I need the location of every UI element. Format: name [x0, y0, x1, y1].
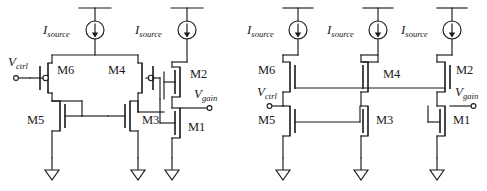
- left-isource-2: [171, 8, 203, 62]
- right-isource-2: [363, 8, 393, 62]
- right-ground-1: [276, 158, 290, 180]
- left-m4-label: M4: [108, 63, 126, 77]
- right-m3-label: M3: [376, 113, 393, 127]
- right-isource-2-label: Isource: [326, 22, 354, 39]
- left-ground-2: [131, 158, 145, 180]
- right-vgain-label: Vgain: [455, 84, 478, 101]
- right-transistor-m3: [361, 106, 368, 158]
- right-isource-3: [437, 8, 467, 55]
- right-transistor-m6: [283, 55, 445, 106]
- left-m1-label: M1: [188, 120, 205, 134]
- left-isource-1-label: Isource: [42, 22, 70, 39]
- right-isource-1-label: Isource: [246, 22, 274, 39]
- right-ground-2: [354, 158, 368, 180]
- right-ground-3: [430, 158, 444, 180]
- left-transistor-m2: [164, 62, 187, 108]
- left-vgain-label: Vgain: [194, 86, 217, 103]
- figure-canvas: Isource Isource M6: [0, 0, 487, 191]
- left-transistor-m1: [160, 99, 180, 158]
- right-m2-label: M2: [456, 63, 473, 77]
- right-transistor-m4: [361, 55, 378, 106]
- left-m6-label: M6: [57, 63, 74, 77]
- left-vctrl-terminal: [14, 76, 30, 81]
- left-m2-label: M2: [190, 67, 207, 81]
- right-circuit: Isource Isource Isource: [246, 8, 478, 180]
- left-transistor-m4: [138, 63, 160, 112]
- right-m5-label: M5: [258, 113, 275, 127]
- left-vctrl-label: Vctrl: [8, 54, 28, 71]
- left-m5-label: M5: [27, 113, 44, 127]
- left-isource-2-label: Isource: [134, 22, 162, 39]
- right-isource-3-label: Isource: [400, 22, 428, 39]
- left-m3-label: M3: [142, 113, 159, 127]
- left-vgain-terminal: [180, 106, 212, 111]
- right-isource-1: [283, 8, 313, 55]
- left-circuit: Isource Isource M6: [8, 8, 217, 180]
- right-transistor-m1: [428, 106, 445, 158]
- right-vctrl-terminal: [267, 104, 283, 109]
- left-transistor-m6: [30, 63, 52, 101]
- circuit-diagram-svg: Isource Isource M6: [0, 0, 487, 191]
- right-vctrl-label: Vctrl: [257, 84, 277, 101]
- left-transistor-m5: [52, 101, 82, 158]
- left-transistor-m3: [82, 101, 138, 158]
- right-vgain-terminal: [450, 104, 476, 109]
- right-transistor-m5: [283, 106, 360, 158]
- left-ground-3: [165, 158, 179, 180]
- left-ground-1: [45, 158, 59, 180]
- right-m4-label: M4: [383, 67, 401, 81]
- left-isource-1: [79, 8, 111, 55]
- right-transistor-m2: [437, 55, 452, 106]
- right-m1-label: M1: [453, 113, 470, 127]
- right-m6-label: M6: [258, 63, 275, 77]
